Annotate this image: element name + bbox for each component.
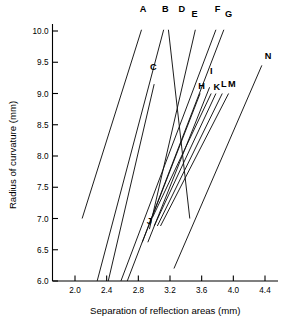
x-axis-title: Separation of reflection areas (mm) [90, 305, 240, 316]
y-axis-tick-label: 9.5 [37, 58, 49, 67]
y-axis-tick-label: 6.0 [37, 277, 49, 286]
x-axis-tick-label: 2.0 [69, 286, 81, 295]
data-line-j [153, 94, 212, 218]
y-axis-title: Radius of curvature (mm) [7, 101, 18, 209]
x-axis-tick-label: 2.8 [133, 286, 145, 295]
data-series-lines [82, 30, 262, 281]
series-label-d: D [179, 4, 186, 14]
x-axis-tick-label: 4.0 [228, 286, 240, 295]
data-line-m [161, 94, 229, 227]
series-label-l: L [221, 79, 227, 89]
y-axis-tick-label: 7.0 [37, 215, 49, 224]
series-label-g: G [225, 9, 232, 19]
data-line-a [82, 30, 141, 219]
axis-ticks [53, 31, 266, 281]
y-axis-tick-label: 7.5 [37, 183, 49, 192]
y-axis-tick-label: 8.0 [37, 152, 49, 161]
y-axis-tick-label: 9.0 [37, 90, 49, 99]
series-label-f: F [215, 4, 221, 14]
data-line-k [154, 94, 216, 227]
series-label-e: E [191, 9, 197, 19]
x-axis-tick-label: 3.2 [164, 286, 176, 295]
data-line-f [121, 30, 216, 281]
y-axis-tick-label: 6.5 [37, 246, 49, 255]
chart-container: 6.06.57.07.58.08.59.09.510.02.02.42.83.2… [0, 0, 289, 324]
series-label-n: N [265, 51, 272, 61]
data-line-e [149, 30, 195, 229]
data-line-n [174, 65, 262, 268]
x-axis-tick-label: 4.4 [259, 286, 271, 295]
axes [53, 24, 279, 281]
series-label-a: A [140, 4, 147, 14]
series-label-m: M [228, 79, 236, 89]
series-label-j: J [147, 216, 152, 226]
series-label-h: H [198, 81, 205, 91]
series-label-k: K [213, 82, 220, 92]
y-axis-tick-label: 8.5 [37, 121, 49, 130]
x-axis-tick-label: 2.4 [101, 286, 113, 295]
series-label-c: C [150, 62, 157, 72]
series-label-i: I [210, 66, 213, 76]
x-axis-tick-label: 3.6 [196, 286, 208, 295]
line-chart: 6.06.57.07.58.08.59.09.510.02.02.42.83.2… [0, 0, 289, 324]
series-label-b: B [162, 4, 169, 14]
y-axis-tick-label: 10.0 [33, 27, 49, 36]
